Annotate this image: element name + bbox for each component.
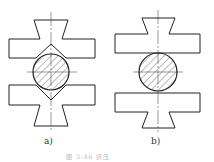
- bottom-die-b: [115, 93, 200, 128]
- forging-die-diagram: [0, 0, 214, 162]
- bottom-die-a: [9, 85, 95, 126]
- panel-a-label: a): [44, 136, 53, 146]
- top-die-b: [115, 18, 200, 53]
- panel-b-label: b): [151, 136, 160, 146]
- top-die-a: [9, 20, 95, 58]
- figure-caption: 图 3-46 挤压: [66, 152, 110, 161]
- panel-a: [9, 12, 95, 132]
- panel-b: [115, 10, 200, 132]
